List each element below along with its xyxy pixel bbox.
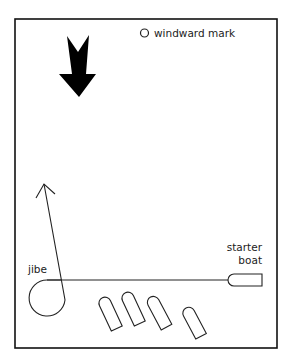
boat-4 [181,305,207,339]
jibe-path [29,184,65,316]
starter-boat-label-line2: boat [238,254,262,266]
windward-mark-label: windward mark [154,27,236,39]
starter-boat-label-line1: starter [227,241,263,253]
sailing-start-diagram: windward mark jibe starter boat [0,0,289,361]
jibe-label: jibe [27,263,47,275]
windward-mark-icon [141,29,149,37]
boat-2 [120,290,145,326]
boat-icon [145,294,172,330]
diagram-frame [15,19,277,348]
wind-arrow-icon [59,35,96,97]
boat-icon [181,305,207,339]
boat-icon [120,290,145,326]
boat-1 [97,295,122,331]
boat-3 [145,294,172,330]
boat-icon [97,295,122,331]
starter-boat-icon [228,274,262,286]
